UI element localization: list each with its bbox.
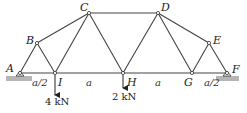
dimension-label-2: a xyxy=(155,77,161,88)
member-CH xyxy=(89,13,123,73)
member-AB xyxy=(20,43,37,73)
truss-diagram: 4 kN2 kN ABCDEFGHIa/2aaa/2 xyxy=(0,0,247,113)
dimension-label-3: a/2 xyxy=(204,77,220,88)
node-label-I: I xyxy=(57,76,63,89)
node-label-D: D xyxy=(160,1,170,14)
node-label-G: G xyxy=(184,76,193,89)
joint-F xyxy=(225,71,228,74)
member-EF xyxy=(209,43,227,73)
joint-E xyxy=(207,41,210,44)
node-label-C: C xyxy=(80,1,89,14)
load-label-I: 4 kN xyxy=(45,96,70,107)
member-GE xyxy=(192,43,209,73)
dimension-label-1: a xyxy=(86,77,92,88)
joint-B xyxy=(35,41,38,44)
joint-I xyxy=(53,71,56,74)
ground-left xyxy=(6,76,32,81)
node-label-H: H xyxy=(126,76,137,89)
node-label-E: E xyxy=(212,34,221,47)
node-label-B: B xyxy=(25,34,34,47)
member-HD xyxy=(123,13,158,73)
joint-A xyxy=(18,71,21,74)
node-label-A: A xyxy=(5,62,14,75)
members xyxy=(20,13,227,73)
member-BI xyxy=(37,43,55,73)
member-BC xyxy=(37,13,89,43)
joint-H xyxy=(121,71,124,74)
dimension-label-0: a/2 xyxy=(32,77,48,88)
member-IC xyxy=(55,13,89,73)
joint-D xyxy=(156,11,159,14)
joint-G xyxy=(190,71,193,74)
load-label-H: 2 kN xyxy=(112,91,137,102)
member-DE xyxy=(158,13,209,43)
member-DG xyxy=(158,13,192,73)
node-label-F: F xyxy=(231,63,240,76)
